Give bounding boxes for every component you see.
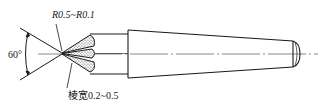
land-width-label: 棱宽0.2~0.5 (68, 89, 118, 101)
angle-label: 60° (8, 49, 22, 60)
flute-section (62, 35, 95, 72)
radius-label: R0.5~R0.1 (51, 9, 95, 20)
tool-drawing: 60° R0.5~R0.1 棱宽0.2~0.5 (0, 0, 326, 109)
